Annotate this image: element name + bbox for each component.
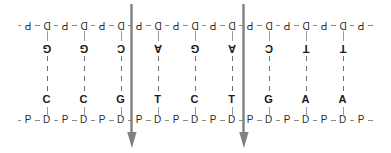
backbone-phosphate-top: P bbox=[169, 20, 183, 30]
backbone-phosphate-bottom: P bbox=[169, 115, 183, 125]
sugar-base-stem bbox=[84, 31, 85, 41]
backbone-phosphate-bottom: P bbox=[206, 115, 220, 125]
sugar-base-stem bbox=[269, 31, 270, 41]
hydrogen-bond-pair-5 bbox=[195, 56, 196, 92]
backbone-phosphate-top: P bbox=[280, 20, 294, 30]
sugar-base-stem bbox=[306, 107, 307, 117]
hydrogen-bond-pair-6 bbox=[232, 56, 233, 92]
sugar-base-stem bbox=[47, 31, 48, 41]
sugar-base-stem bbox=[47, 107, 48, 117]
sugar-base-stem bbox=[121, 31, 122, 41]
sugar-base-stem bbox=[232, 31, 233, 41]
backbone-phosphate-bottom: P bbox=[317, 115, 331, 125]
hydrogen-bond-pair-1 bbox=[47, 56, 48, 92]
sugar-base-stem bbox=[158, 31, 159, 41]
replication-direction-arrow-2 bbox=[238, 4, 250, 149]
hydrogen-bond-pair-3 bbox=[121, 56, 122, 92]
base-c-top: C bbox=[261, 43, 277, 54]
base-a-bottom: A bbox=[335, 94, 351, 105]
base-t-top: T bbox=[298, 43, 314, 54]
backbone-phosphate-top: P bbox=[21, 20, 35, 30]
hydrogen-bond-pair-9 bbox=[343, 56, 344, 92]
sugar-base-stem bbox=[269, 107, 270, 117]
base-c-bottom: C bbox=[76, 94, 92, 105]
backbone-phosphate-bottom: P bbox=[354, 115, 368, 125]
sugar-base-stem bbox=[232, 107, 233, 117]
backbone-phosphate-bottom: P bbox=[58, 115, 72, 125]
base-g-top: G bbox=[187, 43, 203, 54]
backbone-sugar-top: D bbox=[188, 20, 202, 30]
sugar-base-stem bbox=[158, 107, 159, 117]
backbone-phosphate-top: P bbox=[317, 20, 331, 30]
replication-direction-arrow-1 bbox=[126, 4, 138, 149]
base-a-bottom: A bbox=[298, 94, 314, 105]
base-g-top: G bbox=[76, 43, 92, 54]
sugar-base-stem bbox=[84, 107, 85, 117]
sugar-base-stem bbox=[306, 31, 307, 41]
base-c-bottom: C bbox=[187, 94, 203, 105]
base-a-top: A bbox=[150, 43, 166, 54]
backbone-sugar-top: D bbox=[336, 20, 350, 30]
base-t-top: T bbox=[335, 43, 351, 54]
sugar-base-stem bbox=[195, 31, 196, 41]
backbone-phosphate-bottom: P bbox=[21, 115, 35, 125]
base-g-top: G bbox=[39, 43, 55, 54]
backbone-sugar-top: D bbox=[299, 20, 313, 30]
hydrogen-bond-pair-4 bbox=[158, 56, 159, 92]
backbone-sugar-top: D bbox=[40, 20, 54, 30]
base-g-bottom: G bbox=[261, 94, 277, 105]
backbone-phosphate-top: P bbox=[354, 20, 368, 30]
backbone-phosphate-top: P bbox=[206, 20, 220, 30]
sugar-base-stem bbox=[343, 31, 344, 41]
backbone-phosphate-top: P bbox=[58, 20, 72, 30]
sugar-base-stem bbox=[195, 107, 196, 117]
hydrogen-bond-pair-8 bbox=[306, 56, 307, 92]
base-t-bottom: T bbox=[150, 94, 166, 105]
sugar-base-stem bbox=[343, 107, 344, 117]
backbone-phosphate-bottom: P bbox=[280, 115, 294, 125]
backbone-phosphate-bottom: P bbox=[95, 115, 109, 125]
backbone-sugar-top: D bbox=[225, 20, 239, 30]
backbone-sugar-top: D bbox=[262, 20, 276, 30]
sugar-base-stem bbox=[121, 107, 122, 117]
hydrogen-bond-pair-2 bbox=[84, 56, 85, 92]
dna-diagram: PDPDPDPDPDPDPDPDPDP PDPDPDPDPDPDPDPDPDP … bbox=[0, 0, 391, 153]
base-c-bottom: C bbox=[39, 94, 55, 105]
backbone-sugar-top: D bbox=[77, 20, 91, 30]
hydrogen-bond-pair-7 bbox=[269, 56, 270, 92]
backbone-phosphate-top: P bbox=[95, 20, 109, 30]
backbone-sugar-top: D bbox=[151, 20, 165, 30]
